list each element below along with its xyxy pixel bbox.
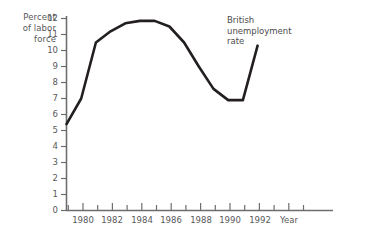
plot-area xyxy=(0,0,380,238)
chart-figure: Percent of labor force 12 11 10 9 8 7 6 … xyxy=(0,0,380,238)
data-line-british-unemployment xyxy=(67,21,258,124)
